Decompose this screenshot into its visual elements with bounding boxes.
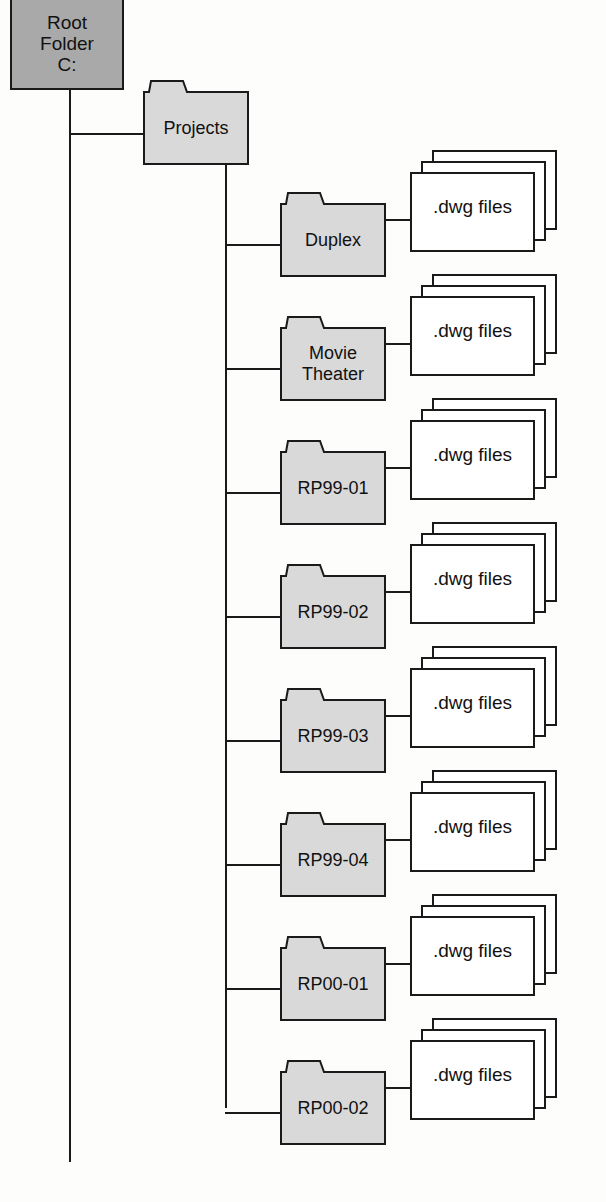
folder-subfolder[interactable]: RP99-04 xyxy=(280,812,386,896)
file-sheet-front: .dwg files xyxy=(410,172,535,252)
file-sheet-front: .dwg files xyxy=(410,420,535,500)
files-label: .dwg files xyxy=(433,196,512,218)
connector-projects-subfolder xyxy=(225,864,281,866)
connector-folder-files xyxy=(385,219,411,221)
file-sheet-front: .dwg files xyxy=(410,296,535,376)
folder-label: RP99-04 xyxy=(280,824,386,896)
folder-subfolder[interactable]: Movie Theater xyxy=(280,316,386,400)
files-label: .dwg files xyxy=(433,444,512,466)
folder-label: Movie Theater xyxy=(280,328,386,400)
folder-subfolder[interactable]: RP99-03 xyxy=(280,688,386,772)
folder-label: RP99-01 xyxy=(280,452,386,524)
root-trunk-line xyxy=(69,88,71,1162)
folder-label: Duplex xyxy=(280,204,386,276)
connector-projects-subfolder xyxy=(225,988,281,990)
folder-label: RP00-02 xyxy=(280,1072,386,1144)
folder-subfolder[interactable]: RP99-02 xyxy=(280,564,386,648)
connector-folder-files xyxy=(385,963,411,965)
connector-projects-subfolder xyxy=(225,368,281,370)
file-sheet-front: .dwg files xyxy=(410,916,535,996)
folder-label: RP99-03 xyxy=(280,700,386,772)
connector-folder-files xyxy=(385,467,411,469)
dwg-files-stack[interactable]: .dwg files xyxy=(410,1018,562,1124)
files-label: .dwg files xyxy=(433,816,512,838)
projects-trunk-line xyxy=(225,163,227,1108)
dwg-files-stack[interactable]: .dwg files xyxy=(410,894,562,1000)
files-label: .dwg files xyxy=(433,1064,512,1086)
connector-projects-subfolder xyxy=(225,740,281,742)
connector-folder-files xyxy=(385,1087,411,1089)
folder-projects[interactable]: Projects xyxy=(143,80,249,164)
folder-subfolder[interactable]: RP00-02 xyxy=(280,1060,386,1144)
connector-projects-subfolder xyxy=(225,1112,281,1114)
files-label: .dwg files xyxy=(433,568,512,590)
connector-projects-subfolder xyxy=(225,244,281,246)
files-label: .dwg files xyxy=(433,320,512,342)
dwg-files-stack[interactable]: .dwg files xyxy=(410,274,562,380)
root-folder-c[interactable]: Root Folder C: xyxy=(10,0,124,90)
connector-projects-subfolder xyxy=(225,616,281,618)
folder-label: RP99-02 xyxy=(280,576,386,648)
connector-projects-subfolder xyxy=(225,492,281,494)
folder-subfolder[interactable]: RP00-01 xyxy=(280,936,386,1020)
dwg-files-stack[interactable]: .dwg files xyxy=(410,398,562,504)
file-sheet-front: .dwg files xyxy=(410,792,535,872)
file-sheet-front: .dwg files xyxy=(410,1040,535,1120)
connector-folder-files xyxy=(385,591,411,593)
dwg-files-stack[interactable]: .dwg files xyxy=(410,150,562,256)
connector-root-projects xyxy=(69,133,144,135)
file-sheet-front: .dwg files xyxy=(410,668,535,748)
connector-folder-files xyxy=(385,343,411,345)
folder-label: RP00-01 xyxy=(280,948,386,1020)
folder-subfolder[interactable]: RP99-01 xyxy=(280,440,386,524)
file-sheet-front: .dwg files xyxy=(410,544,535,624)
folder-label: Projects xyxy=(143,92,249,164)
files-label: .dwg files xyxy=(433,940,512,962)
dwg-files-stack[interactable]: .dwg files xyxy=(410,770,562,876)
folder-subfolder[interactable]: Duplex xyxy=(280,192,386,276)
connector-folder-files xyxy=(385,715,411,717)
dwg-files-stack[interactable]: .dwg files xyxy=(410,646,562,752)
connector-folder-files xyxy=(385,839,411,841)
files-label: .dwg files xyxy=(433,692,512,714)
dwg-files-stack[interactable]: .dwg files xyxy=(410,522,562,628)
